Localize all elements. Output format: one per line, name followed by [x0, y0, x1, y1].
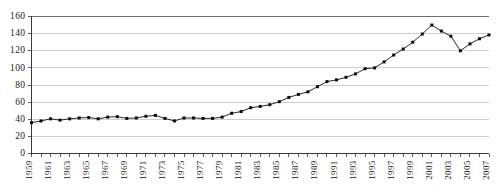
y-tick-label: 0 — [20, 148, 25, 158]
x-tick-label: 1997 — [386, 160, 396, 179]
data-point-marker — [173, 119, 176, 122]
x-tick-label: 1963 — [62, 160, 72, 179]
x-tick-label: 2005 — [462, 160, 472, 179]
x-tick-label: 1995 — [367, 160, 377, 179]
data-point-marker — [192, 116, 195, 119]
data-point-marker — [402, 48, 405, 51]
data-point-marker — [97, 117, 100, 120]
y-tick-label: 80 — [15, 80, 25, 90]
data-point-marker — [478, 37, 481, 40]
data-point-marker — [116, 115, 119, 118]
data-point-marker — [468, 42, 471, 45]
data-point-marker — [240, 110, 243, 113]
data-point-marker — [30, 121, 33, 124]
data-point-marker — [144, 115, 147, 118]
x-tick-label: 1981 — [233, 161, 243, 180]
x-tick-label: 1979 — [214, 160, 224, 179]
y-tick-label: 140 — [10, 28, 25, 38]
y-tick-label: 40 — [15, 114, 25, 124]
data-point-marker — [335, 78, 338, 81]
data-point-marker — [354, 72, 357, 75]
x-tick-label: 1959 — [24, 160, 34, 179]
y-tick-labels: 160140120100806040200 — [10, 11, 25, 158]
x-tick-label: 1983 — [252, 160, 262, 179]
x-tick-label: 2003 — [443, 160, 453, 179]
data-point-marker — [316, 85, 319, 88]
x-tick-label: 1967 — [100, 160, 110, 179]
x-tick-label: 1961 — [43, 161, 53, 180]
data-point-marker — [49, 117, 52, 120]
data-point-marker — [78, 116, 81, 119]
data-point-marker — [383, 60, 386, 63]
x-tick-labels: 1959196119631965196719691971197319751977… — [24, 160, 492, 179]
data-point-marker — [202, 117, 205, 120]
data-point-marker — [373, 66, 376, 69]
data-point-marker — [297, 93, 300, 96]
data-point-marker — [325, 80, 328, 83]
series-line — [32, 25, 490, 123]
data-point-marker — [440, 30, 443, 33]
line-chart: 160140120100806040200 195919611963196519… — [0, 0, 497, 195]
x-tick-label: 1973 — [157, 160, 167, 179]
data-markers — [30, 24, 491, 125]
x-tick-label: 1989 — [309, 160, 319, 179]
data-point-marker — [68, 117, 71, 120]
data-point-marker — [125, 117, 128, 120]
data-point-marker — [345, 76, 348, 79]
y-tick-label: 60 — [15, 97, 25, 107]
data-point-marker — [249, 106, 252, 109]
y-tick-label: 160 — [10, 11, 25, 21]
data-point-marker — [364, 67, 367, 70]
data-point-marker — [449, 35, 452, 38]
data-point-marker — [488, 33, 491, 36]
x-tick-label: 1987 — [290, 160, 300, 179]
data-point-marker — [135, 116, 138, 119]
data-point-marker — [421, 33, 424, 36]
y-tick-label: 120 — [10, 45, 25, 55]
data-point-marker — [40, 119, 43, 122]
x-tick-label: 1969 — [119, 160, 129, 179]
data-point-marker — [430, 24, 433, 27]
x-tick-label: 1965 — [81, 160, 91, 179]
chart-canvas: 160140120100806040200 195919611963196519… — [0, 0, 497, 195]
data-point-marker — [392, 54, 395, 57]
x-tick-label: 1999 — [405, 160, 415, 179]
data-series — [32, 25, 490, 123]
x-tick-label: 1993 — [348, 160, 358, 179]
y-tick-label: 20 — [15, 131, 25, 141]
data-point-marker — [87, 116, 90, 119]
data-point-marker — [259, 105, 262, 108]
data-point-marker — [106, 116, 109, 119]
data-point-marker — [59, 119, 62, 122]
data-point-marker — [211, 117, 214, 120]
x-tick-label: 1975 — [176, 160, 186, 179]
x-tick-label: 1985 — [271, 160, 281, 179]
x-tick-label: 1977 — [195, 160, 205, 179]
data-point-marker — [183, 116, 186, 119]
y-axis — [28, 16, 32, 155]
data-point-marker — [230, 112, 233, 115]
data-point-marker — [163, 117, 166, 120]
data-point-marker — [221, 116, 224, 119]
x-tick-label: 2007 — [481, 160, 491, 179]
data-point-marker — [278, 100, 281, 103]
data-point-marker — [287, 96, 290, 99]
x-tick-label: 1971 — [138, 161, 148, 180]
y-tick-label: 100 — [10, 63, 25, 73]
data-point-marker — [459, 49, 462, 52]
data-point-marker — [306, 90, 309, 93]
x-tick-label: 1991 — [329, 161, 339, 180]
data-point-marker — [411, 41, 414, 44]
data-point-marker — [154, 114, 157, 117]
data-point-marker — [268, 103, 271, 106]
x-tick-label: 2001 — [424, 161, 434, 180]
